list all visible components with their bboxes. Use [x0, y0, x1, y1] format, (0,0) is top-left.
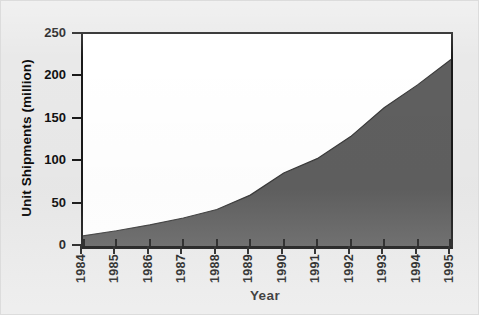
x-axis-tick-inner: [249, 239, 251, 246]
y-axis-tick-mark: [72, 202, 81, 204]
x-axis-tick-inner: [182, 239, 184, 246]
x-axis-tick-mark: [247, 246, 249, 254]
x-axis-tick-inner: [83, 239, 85, 246]
x-axis-tick-mark: [281, 246, 283, 254]
x-axis-tick-label: 1989: [241, 254, 255, 283]
y-axis-tick-label: 250: [44, 25, 66, 40]
x-axis-tick-label: 1984: [74, 254, 88, 283]
x-axis-tick-mark: [180, 246, 182, 254]
x-axis-tick-label: 1994: [409, 254, 423, 283]
x-axis-tick-label: 1988: [208, 254, 222, 283]
y-axis-tick-label: 100: [44, 152, 66, 167]
plot-area: [83, 34, 451, 246]
x-axis-tick-label: 1995: [442, 254, 456, 283]
x-axis-tick-inner: [283, 239, 285, 246]
x-axis-tick-mark: [448, 246, 450, 254]
y-axis-tick-label: 200: [44, 67, 66, 82]
y-axis-tick-mark: [72, 117, 81, 119]
x-axis-tick-inner: [350, 239, 352, 246]
x-axis-tick-inner: [115, 239, 117, 246]
x-axis-tick-label: 1985: [107, 254, 121, 283]
x-axis-tick-label: 1990: [275, 254, 289, 283]
x-axis-tick-mark: [214, 246, 216, 254]
plot-frame: [81, 32, 453, 249]
x-axis-title: Year: [81, 288, 449, 303]
x-axis-tick-mark: [314, 246, 316, 254]
x-axis-tick-mark: [113, 246, 115, 254]
x-axis-tick-mark: [80, 246, 82, 254]
x-axis-tick-inner: [216, 239, 218, 246]
y-axis-tick-mark: [72, 159, 81, 161]
x-axis-tick-mark: [381, 246, 383, 254]
y-axis-title: Unit Shipments (million): [15, 32, 37, 244]
x-axis-tick-label: 1993: [375, 254, 389, 283]
y-axis-tick-label: 0: [59, 237, 66, 252]
x-axis-tick-label: 1992: [342, 254, 356, 283]
y-axis-tick-mark: [72, 32, 81, 34]
y-axis-tick-mark: [72, 74, 81, 76]
x-axis-tick-inner: [417, 239, 419, 246]
x-axis-tick-inner: [383, 239, 385, 246]
x-axis-tick-inner: [149, 239, 151, 246]
y-axis-tick-label: 50: [52, 194, 66, 209]
x-axis-tick-mark: [348, 246, 350, 254]
y-axis-tick-label: 150: [44, 109, 66, 124]
chart-figure: Unit Shipments (million) 250200150100500…: [0, 0, 479, 315]
area-series-unit-shipments: [83, 34, 451, 246]
x-axis-tick-label: 1987: [174, 254, 188, 283]
x-axis-tick-inner: [449, 239, 451, 246]
x-axis-tick-inner: [316, 239, 318, 246]
x-axis-tick-label: 1991: [308, 254, 322, 283]
x-axis-tick-label: 1986: [141, 254, 155, 283]
x-axis-tick-mark: [147, 246, 149, 254]
x-axis-tick-mark: [415, 246, 417, 254]
